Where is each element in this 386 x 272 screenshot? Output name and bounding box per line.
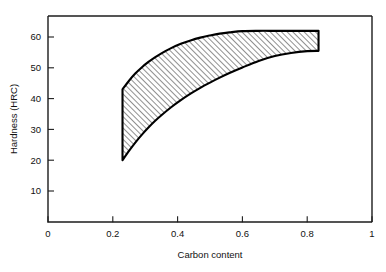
x-tick-label: 0.4: [171, 228, 184, 239]
y-tick-label: 30: [30, 124, 41, 135]
x-axis-title: Carbon content: [178, 249, 243, 260]
hardness-vs-carbon-chart: 102030405060 00.20.40.60.81 Carbon conte…: [0, 0, 386, 272]
y-tick-label: 40: [30, 93, 41, 104]
x-tick-label: 0: [45, 228, 50, 239]
x-tick-label: 1: [369, 228, 374, 239]
y-tick-label: 60: [30, 31, 41, 42]
y-tick-label: 10: [30, 185, 41, 196]
y-axis-title: Hardness (HRC): [8, 84, 19, 154]
x-tick-label: 0.8: [301, 228, 314, 239]
x-tick-label: 0.2: [106, 228, 119, 239]
chart-figure: 102030405060 00.20.40.60.81 Carbon conte…: [0, 0, 386, 272]
x-tick-label: 0.6: [236, 228, 249, 239]
y-tick-label: 20: [30, 155, 41, 166]
y-tick-label: 50: [30, 62, 41, 73]
